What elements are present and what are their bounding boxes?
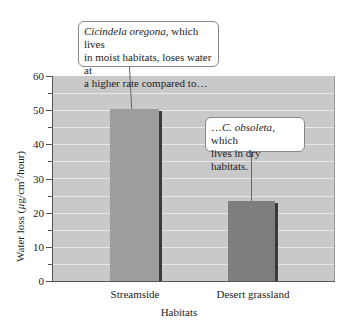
y-axis-label: Water loss (µg/cm2/hour) — [13, 151, 26, 262]
y-axis-label-sup: 2 — [13, 178, 21, 182]
y-axis-label-text: Water loss ( — [14, 210, 26, 262]
y-axis-label-mu: µ — [14, 203, 26, 209]
gridline — [53, 213, 334, 214]
y-tick-label: 0 — [14, 275, 44, 287]
y-tick-label: 60 — [14, 70, 44, 82]
gridline — [53, 247, 334, 248]
y-tick-minor — [48, 93, 53, 94]
y-axis-label-unit-end: /hour) — [14, 151, 26, 178]
gridline — [53, 178, 334, 179]
plot-area — [53, 76, 335, 281]
y-axis-label-unit: g/cm — [14, 181, 26, 203]
gridline — [53, 230, 334, 231]
bar-shadow — [159, 111, 162, 281]
y-tick — [46, 281, 53, 282]
species-name: Cicindela oregona — [84, 25, 166, 37]
y-tick-label: 50 — [14, 104, 44, 116]
y-tick-label: 40 — [14, 138, 44, 150]
x-axis — [52, 281, 335, 282]
y-tick — [46, 110, 53, 111]
callout-line: a higher rate compared to… — [84, 77, 213, 90]
gridline — [53, 110, 334, 111]
y-tick — [46, 213, 53, 214]
y-tick — [46, 76, 53, 77]
y-tick — [46, 247, 53, 248]
gridline — [53, 264, 334, 265]
callout-line: Cicindela oregona, which lives — [84, 25, 213, 51]
y-tick — [46, 144, 53, 145]
y-tick-minor — [48, 161, 53, 162]
annotation-callout-desert: …C. obsoleta, which lives in dry habitat… — [205, 117, 305, 152]
x-axis-label: Habitats — [119, 306, 239, 318]
annotation-callout-streamside: Cicindela oregona, which lives in moist … — [78, 21, 219, 67]
y-tick-minor — [48, 127, 53, 128]
x-category-desert-grassland: Desert grassland — [193, 288, 313, 300]
y-tick — [46, 179, 53, 180]
species-name: C. obsoleta — [222, 121, 272, 133]
callout-text: … — [211, 121, 222, 133]
callout-line: …C. obsoleta, which — [211, 121, 299, 147]
gridline — [53, 196, 334, 197]
y-tick-minor — [48, 230, 53, 231]
bar-streamside — [110, 109, 159, 281]
y-tick-minor — [48, 196, 53, 197]
bar-desert-grassland — [228, 201, 275, 281]
gridline — [53, 93, 334, 94]
bar-shadow — [275, 203, 278, 281]
callout-line: in moist habitats, loses water at — [84, 51, 213, 77]
callout-line: lives in dry habitats. — [211, 147, 299, 173]
x-category-streamside: Streamside — [75, 288, 195, 300]
y-tick-minor — [48, 264, 53, 265]
